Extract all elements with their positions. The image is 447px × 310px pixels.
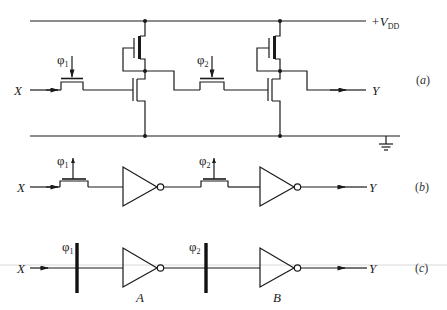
output-label-y-b: Y: [369, 180, 378, 195]
clock-label-phi2-a: φ2: [197, 52, 209, 69]
caption-a: (a): [416, 73, 430, 87]
circuit-b: X Y φ1 φ2 (b): [16, 153, 429, 206]
inverter-stage-2: [257, 19, 282, 138]
inversion-bubble-icon: [294, 265, 300, 271]
inverter-a: [123, 248, 164, 287]
input-label-x-b: X: [16, 180, 26, 195]
input-label-x-c: X: [16, 261, 26, 276]
clock-label-phi1-a: φ1: [57, 52, 69, 69]
vdd-label: +VDD: [371, 14, 399, 31]
inverter-b1: [123, 167, 164, 206]
clock-label-phi2-c: φ2: [189, 239, 201, 256]
clock-phi1-arrow-icon: [71, 158, 75, 163]
clock-label-phi1-c: φ1: [62, 239, 74, 256]
inverter-stage-1: [123, 19, 147, 138]
circuit-c: X Y φ1 φ2 A B (c): [0, 239, 447, 305]
clock-phi2-arrow-icon: [212, 158, 216, 163]
circuit-a: X Y φ1 φ2 +VDD (a): [13, 14, 430, 150]
inversion-bubble-icon: [294, 184, 300, 190]
inverter-label-b: B: [273, 290, 281, 305]
wire-node2-to-output: [280, 71, 340, 90]
caption-c: (c): [415, 261, 428, 275]
shift-register-figure: X Y φ1 φ2 +VDD (a): [0, 0, 447, 310]
inversion-bubble-icon: [157, 265, 163, 271]
output-label-y-c: Y: [369, 261, 378, 276]
inverter-label-a: A: [135, 290, 144, 305]
inversion-bubble-icon: [157, 184, 163, 190]
clock-label-phi1-b: φ1: [57, 153, 69, 170]
clock-label-phi2-b: φ2: [199, 153, 211, 170]
ground-icon: [379, 136, 393, 150]
caption-b: (b): [415, 180, 429, 194]
input-label-x-a: X: [13, 83, 23, 98]
inverter-b2: [260, 167, 301, 206]
output-label-y-a: Y: [372, 83, 381, 98]
wire-node1-to-pass2: [145, 71, 200, 90]
inverter-b: [260, 248, 301, 287]
